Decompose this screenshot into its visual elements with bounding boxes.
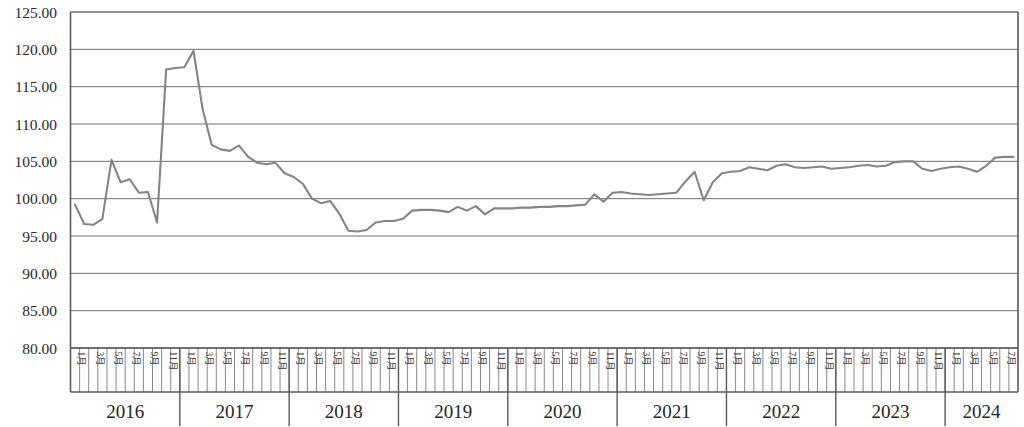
y-axis-tick-labels: 125.00120.00115.00110.00105.00100.0095.0… xyxy=(14,4,57,357)
month-tick-label: 3月 xyxy=(95,352,105,367)
year-label: 2022 xyxy=(762,401,800,422)
month-tick-label: 5月 xyxy=(878,352,888,367)
month-tick-label: 3月 xyxy=(860,352,870,367)
y-tick-label: 80.00 xyxy=(22,340,57,357)
month-tick-label: 11月 xyxy=(714,352,724,371)
month-tick-label: 11月 xyxy=(277,352,287,371)
month-tick-label: 9月 xyxy=(368,352,378,367)
year-label: 2023 xyxy=(871,401,909,422)
month-tick-label: 5月 xyxy=(769,352,779,367)
axis-lines xyxy=(71,12,1019,392)
x-axis-year-labels: 201620172018201920202021202220232024 xyxy=(106,401,1001,422)
month-tick-label: 1月 xyxy=(842,352,852,367)
month-tick-label: 9月 xyxy=(587,352,597,367)
month-tick-label: 3月 xyxy=(969,352,979,367)
month-tick-label: 1月 xyxy=(623,352,633,367)
data-series-group xyxy=(75,51,1013,232)
year-label: 2019 xyxy=(434,401,472,422)
chart-canvas: 125.00120.00115.00110.00105.00100.0095.0… xyxy=(0,0,1024,427)
month-tick-label: 1月 xyxy=(404,352,414,367)
month-tick-label: 3月 xyxy=(532,352,542,367)
month-tick-label: 11月 xyxy=(605,352,615,371)
month-tick-label: 11月 xyxy=(933,352,943,371)
gridlines-group xyxy=(71,12,1019,348)
y-tick-label: 110.00 xyxy=(15,116,57,133)
y-tick-label: 100.00 xyxy=(14,190,57,207)
month-tick-label: 9月 xyxy=(259,352,269,367)
month-tick-label: 7月 xyxy=(240,352,250,367)
month-tick-label: 9月 xyxy=(915,352,925,367)
month-tick-label: 3月 xyxy=(313,352,323,367)
month-tick-label: 11月 xyxy=(496,352,506,371)
month-tick-label: 3月 xyxy=(751,352,761,367)
month-tick-label: 7月 xyxy=(459,352,469,367)
x-axis-month-labels: 1月3月5月7月9月11月1月3月5月7月9月11月1月3月5月7月9月11月1… xyxy=(76,352,1015,371)
month-tick-label: 7月 xyxy=(568,352,578,367)
month-tick-label: 11月 xyxy=(386,352,396,371)
month-tick-label: 9月 xyxy=(477,352,487,367)
month-tick-label: 1月 xyxy=(295,352,305,367)
month-tick-label: 5月 xyxy=(113,352,123,367)
month-tick-label: 7月 xyxy=(678,352,688,367)
data-line-series xyxy=(75,51,1013,232)
month-tick-label: 5月 xyxy=(660,352,670,367)
month-tick-label: 5月 xyxy=(441,352,451,367)
month-tick-label: 1月 xyxy=(76,352,86,367)
month-tick-label: 7月 xyxy=(350,352,360,367)
y-tick-label: 95.00 xyxy=(22,228,57,245)
month-tick-label: 9月 xyxy=(696,352,706,367)
month-tick-label: 3月 xyxy=(641,352,651,367)
year-label: 2016 xyxy=(106,401,144,422)
y-tick-label: 115.00 xyxy=(15,78,57,95)
month-tick-label: 5月 xyxy=(550,352,560,367)
month-tick-label: 1月 xyxy=(186,352,196,367)
month-tick-label: 3月 xyxy=(204,352,214,367)
month-tick-label: 5月 xyxy=(222,352,232,367)
y-tick-label: 125.00 xyxy=(14,4,57,21)
month-tick-label: 3月 xyxy=(423,352,433,367)
year-label: 2020 xyxy=(543,401,581,422)
month-tick-label: 7月 xyxy=(1006,352,1016,367)
month-tick-label: 1月 xyxy=(951,352,961,367)
y-tick-label: 105.00 xyxy=(14,153,57,170)
year-label: 2017 xyxy=(215,401,253,422)
year-label: 2018 xyxy=(325,401,363,422)
line-chart: 125.00120.00115.00110.00105.00100.0095.0… xyxy=(0,0,1024,427)
y-tick-label: 90.00 xyxy=(22,265,57,282)
year-label: 2021 xyxy=(653,401,691,422)
year-label: 2024 xyxy=(963,401,1002,422)
month-tick-label: 11月 xyxy=(168,352,178,371)
month-tick-label: 9月 xyxy=(805,352,815,367)
month-tick-label: 11月 xyxy=(824,352,834,371)
month-tick-label: 1月 xyxy=(514,352,524,367)
month-tick-label: 7月 xyxy=(787,352,797,367)
month-tick-label: 1月 xyxy=(732,352,742,367)
month-tick-label: 9月 xyxy=(149,352,159,367)
month-tick-label: 5月 xyxy=(988,352,998,367)
y-tick-label: 85.00 xyxy=(22,302,57,319)
month-tick-label: 7月 xyxy=(896,352,906,367)
y-tick-label: 120.00 xyxy=(14,41,57,58)
month-tick-label: 5月 xyxy=(332,352,342,367)
month-tick-label: 7月 xyxy=(131,352,141,367)
